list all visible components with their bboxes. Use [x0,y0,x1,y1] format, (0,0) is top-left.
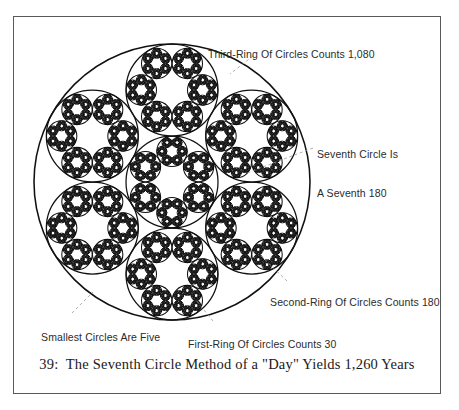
figure-caption: 39: The Seventh Circle Method of a "Day"… [13,356,441,373]
annotation-smallest-circles-text: Smallest Circles Are Five [41,331,160,343]
annotation-smallest-circles: Smallest Circles Are Five [29,318,160,357]
annotation-seventh-circle-line1: Seventh Circle Is [317,148,398,161]
annotation-seventh-circle-line2: A Seventh 180 [317,187,398,200]
annotation-third-ring: Third-Ring Of Circles Counts 1,080 [196,35,375,74]
annotation-seventh-circle: Seventh Circle Is A Seventh 180 [317,122,398,226]
annotation-second-ring: Second-Ring Of Circles Counts 180 [258,283,440,322]
fractal-circles-group [34,44,310,320]
annotation-second-ring-text: Second-Ring Of Circles Counts 180 [270,296,440,308]
annotation-first-ring-text: First-Ring Of Circles Counts 30 [188,338,336,350]
figure-page: Third-Ring Of Circles Counts 1,080 Seven… [0,0,459,410]
annotation-third-ring-text: Third-Ring Of Circles Counts 1,080 [208,48,375,60]
leader-line-smallest [72,292,93,313]
